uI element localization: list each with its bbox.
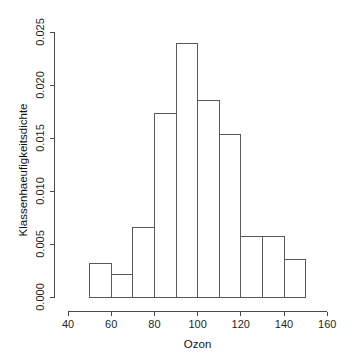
histogram-bar bbox=[219, 135, 241, 297]
x-axis-tick-label: 40 bbox=[62, 318, 74, 330]
histogram-figure: 0.0000.0050.0100.0150.0200.025 406080100… bbox=[0, 0, 355, 361]
histogram-bar bbox=[176, 44, 198, 297]
y-axis-tick-label: 0.010 bbox=[34, 177, 46, 205]
y-axis-tick-label: 0.020 bbox=[34, 71, 46, 99]
x-axis-tick-label: 100 bbox=[188, 318, 206, 330]
x-axis-title: Ozon bbox=[184, 338, 212, 350]
histogram-bar bbox=[284, 260, 306, 297]
y-axis-tick-label: 0.025 bbox=[34, 18, 46, 46]
histogram-bar bbox=[133, 227, 155, 297]
histogram-bar bbox=[111, 275, 133, 297]
histogram-bar bbox=[198, 101, 220, 297]
histogram-bar bbox=[154, 114, 176, 297]
y-axis-title: Klassenhaeufigkeitsdichte bbox=[17, 104, 29, 237]
x-axis-tick-label: 160 bbox=[318, 318, 336, 330]
x-axis-tick-label: 60 bbox=[105, 318, 117, 330]
x-axis-tick-label: 140 bbox=[275, 318, 293, 330]
x-axis-tick-label: 120 bbox=[232, 318, 250, 330]
histogram-bar bbox=[262, 237, 284, 297]
y-axis-tick-label: 0.005 bbox=[34, 230, 46, 258]
y-axis-tick-label: 0.015 bbox=[34, 124, 46, 152]
histogram-bar bbox=[241, 237, 263, 297]
histogram-plot: 0.0000.0050.0100.0150.0200.025 406080100… bbox=[0, 0, 355, 361]
y-axis-tick-label: 0.000 bbox=[34, 283, 46, 311]
histogram-bar bbox=[90, 263, 112, 297]
x-axis-tick-label: 80 bbox=[148, 318, 160, 330]
